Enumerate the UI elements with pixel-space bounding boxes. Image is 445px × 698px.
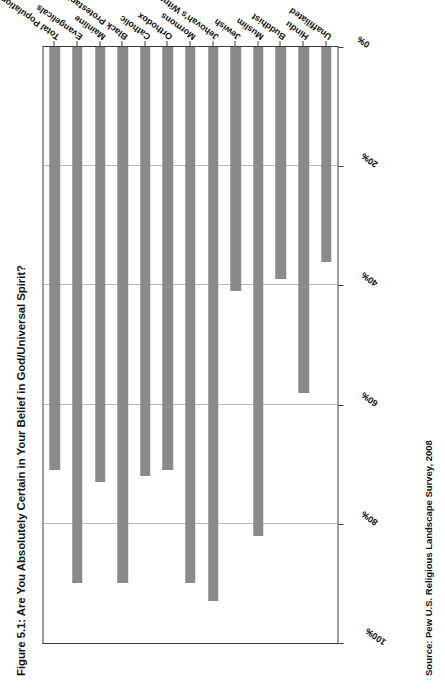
bar — [230, 47, 241, 291]
x-tick-mark — [338, 285, 343, 286]
bar-row — [314, 47, 337, 643]
bar-row — [88, 47, 111, 643]
bar-row — [111, 47, 134, 643]
x-tick-label: 60% — [359, 390, 379, 409]
x-tick-mark — [338, 524, 343, 525]
category-tick-mark — [234, 41, 235, 46]
bar — [320, 47, 331, 262]
bar-row — [66, 47, 89, 643]
bar — [207, 47, 218, 601]
bar — [49, 47, 60, 470]
bar — [162, 47, 173, 470]
source-note: Source: Pew U.S. Religious Landscape Sur… — [422, 440, 433, 676]
bar-row — [156, 47, 179, 643]
x-tick-label: 20% — [359, 151, 379, 170]
bar — [253, 47, 264, 536]
x-tick-mark — [338, 405, 343, 406]
x-tick-mark — [338, 166, 343, 167]
bar-row — [179, 47, 202, 643]
category-tick-mark — [325, 41, 326, 46]
category-tick-mark — [121, 41, 122, 46]
bar — [275, 47, 286, 279]
x-tick-mark — [338, 47, 343, 48]
category-tick-mark — [302, 41, 303, 46]
x-tick-label: 0% — [355, 34, 371, 50]
bar — [94, 47, 105, 482]
bar-row — [292, 47, 315, 643]
category-tick-mark — [99, 41, 100, 46]
bar-row — [201, 47, 224, 643]
chart-title: Figure 5.1: Are You Absolutely Certain i… — [14, 265, 26, 676]
x-tick-label: 80% — [359, 509, 379, 528]
figure: Figure 5.1: Are You Absolutely Certain i… — [0, 0, 445, 698]
category-tick-mark — [189, 41, 190, 46]
x-tick-label: 40% — [359, 271, 379, 290]
bar — [140, 47, 151, 476]
bar-row — [269, 47, 292, 643]
bar — [298, 47, 309, 393]
x-tick-mark — [338, 643, 343, 644]
category-tick-mark — [257, 41, 258, 46]
bar-row — [224, 47, 247, 643]
rotated-page-container: Figure 5.1: Are You Absolutely Certain i… — [0, 0, 445, 698]
bar — [72, 47, 83, 583]
bar-row — [133, 47, 156, 643]
bar-row — [43, 47, 66, 643]
x-tick-label: 100% — [363, 626, 388, 647]
plot-area — [42, 46, 338, 644]
category-tick-mark — [212, 41, 213, 46]
bar-row — [247, 47, 270, 643]
bar — [185, 47, 196, 583]
category-tick-mark — [144, 41, 145, 46]
bar — [117, 47, 128, 583]
category-tick-mark — [76, 41, 77, 46]
